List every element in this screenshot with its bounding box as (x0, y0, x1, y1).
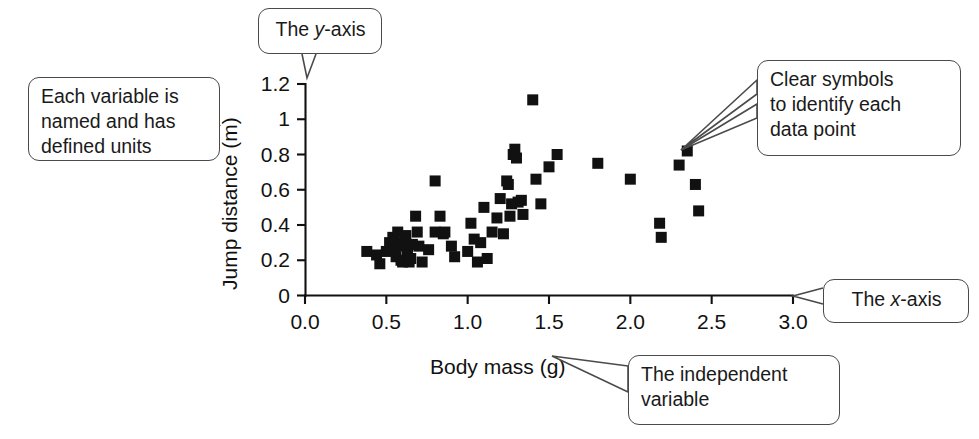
callout-y-axis: The y-axis (258, 8, 382, 54)
callout-x-axis: The x-axis (823, 279, 969, 323)
y-tick-label: 0.6 (261, 178, 290, 201)
x-tick-label: 1.5 (534, 310, 563, 333)
y-axis-title: Jump distance (m) (218, 117, 241, 290)
data-point (412, 227, 423, 238)
x-axis-title: Body mass (g) (430, 355, 565, 378)
data-point (503, 179, 514, 190)
figure-page: 00.20.40.60.811.2 0.00.51.01.52.02.53.0 … (0, 0, 979, 439)
data-point (682, 145, 693, 156)
y-tick-label: 0 (278, 284, 290, 307)
y-axis-tick-labels: 00.20.40.60.811.2 (261, 72, 291, 307)
callout-independent-line-1: The independent (641, 362, 828, 387)
data-point (423, 244, 434, 255)
callout-y-axis-suffix: -axis (324, 18, 365, 40)
data-point (478, 202, 489, 213)
data-point (472, 257, 483, 268)
data-point (690, 179, 701, 190)
x-tick-label: 1.0 (453, 310, 482, 333)
data-point (516, 195, 527, 206)
data-point (410, 211, 421, 222)
data-point (462, 246, 473, 257)
data-point (592, 158, 603, 169)
data-point (430, 175, 441, 186)
x-axis-tick-labels: 0.00.51.01.52.02.53.0 (290, 310, 807, 333)
data-point (656, 232, 667, 243)
callout-x-axis-prefix: The (852, 288, 891, 310)
data-point-group (361, 94, 704, 269)
data-point (487, 227, 498, 238)
callout-variable-line-3: defined units (41, 134, 208, 159)
data-point (361, 246, 372, 257)
data-point (530, 174, 541, 185)
data-point (544, 161, 555, 172)
data-point (527, 94, 538, 105)
data-point (405, 253, 416, 264)
x-tick-label: 2.5 (697, 310, 726, 333)
y-tick-label: 0.8 (261, 143, 290, 166)
data-point (674, 160, 685, 171)
data-point (374, 258, 385, 269)
data-point (439, 227, 450, 238)
callout-symbols-line-3: data point (770, 117, 949, 142)
x-tick-label: 0.5 (372, 310, 401, 333)
x-tick-label: 2.0 (616, 310, 645, 333)
y-tick-label: 0.4 (261, 213, 291, 236)
callout-clear-symbols: Clear symbols to identify each data poin… (757, 60, 961, 156)
y-tick-label: 1 (278, 107, 290, 130)
callout-variable-line-2: named and has (41, 109, 208, 134)
x-axis-ticks (305, 296, 793, 305)
data-point (482, 253, 493, 264)
callout-independent-variable: The independent variable (628, 355, 840, 425)
callout-x-axis-emphasis: x (891, 288, 901, 310)
callout-y-axis-emphasis: y (315, 18, 325, 40)
callout-y-axis-prefix: The (276, 18, 315, 40)
data-point (625, 174, 636, 185)
callout-each-variable: Each variable is named and has defined u… (28, 77, 220, 161)
data-point (552, 149, 563, 160)
x-tick-label: 3.0 (778, 310, 807, 333)
data-point (491, 212, 502, 223)
data-point (475, 237, 486, 248)
callout-independent-line-2: variable (641, 387, 828, 412)
data-point (517, 209, 528, 220)
y-axis-ticks (297, 84, 305, 296)
callout-symbols-line-1: Clear symbols (770, 67, 949, 92)
data-point (498, 228, 509, 239)
data-point (465, 218, 476, 229)
data-point (435, 211, 446, 222)
data-point (535, 198, 546, 209)
data-point (417, 257, 428, 268)
y-tick-label: 1.2 (261, 72, 290, 95)
callout-x-axis-suffix: -axis (900, 288, 941, 310)
x-tick-label: 0.0 (290, 310, 319, 333)
data-point (446, 241, 457, 252)
data-point (504, 211, 515, 222)
callout-symbols-line-2: to identify each (770, 92, 949, 117)
callout-variable-line-1: Each variable is (41, 84, 208, 109)
data-point (413, 241, 424, 252)
data-point (654, 218, 665, 229)
data-point (693, 205, 704, 216)
data-point (511, 153, 522, 164)
data-point (449, 251, 460, 262)
data-point (495, 193, 506, 204)
y-tick-label: 0.2 (261, 248, 290, 271)
